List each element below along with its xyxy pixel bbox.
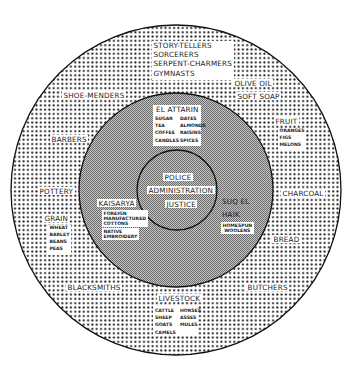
suq-el-haik-title-1: SUQ EL: [222, 198, 250, 205]
el-attarin-item: TEA: [155, 124, 179, 129]
grain-item: BEANS: [50, 240, 70, 245]
police-label: POLICE: [163, 173, 193, 181]
grain-item: BARLEY: [50, 233, 70, 238]
el-attarin-item: CANDLES: [155, 139, 179, 144]
el-attarin-item: ALMONDS: [180, 124, 206, 129]
fruit-item: FIGS: [280, 136, 305, 141]
kaisarya-title: KAISARYA: [97, 199, 136, 207]
livestock-item: MULES: [180, 323, 201, 328]
grain-item: WHEAT: [50, 226, 70, 231]
livestock-item: HORSES: [180, 309, 201, 314]
entertainer-label: SERPENT-CHARMERS: [154, 60, 233, 67]
olive-oil-label: OLIVE OIL: [233, 79, 273, 87]
livestock-item: SHEEP: [155, 316, 176, 321]
charcoal-label: CHARCOAL: [281, 189, 325, 197]
fruit-items: ORANGES FIGS MELONS: [278, 128, 306, 151]
el-attarin-title: EL ATTARIN: [156, 106, 199, 113]
grain-item: PEAS: [50, 247, 70, 252]
kaisarya-group2: NATIVE EMBROIDERY: [102, 228, 139, 240]
el-attarin-item: SPICES: [180, 139, 206, 144]
entertainers-list: STORY-TELLERS SORCERERS SERPENT-CHARMERS…: [152, 41, 234, 80]
kaisarya-item: EMBROIDERY: [104, 234, 138, 239]
kaisarya-group1: FOREIGN MANUFACTURED COTTONS: [102, 210, 148, 227]
blacksmiths-label: BLACKSMITHS: [66, 283, 122, 291]
livestock-item: CATTLE: [155, 309, 176, 314]
fruit-item: ORANGES: [280, 129, 305, 134]
el-attarin-col2: DATES ALMONDS RAISINS SPICES: [180, 117, 206, 146]
el-attarin-item: DATES: [180, 117, 206, 122]
el-attarin-item: COFFEE: [155, 131, 179, 136]
soft-soap-label: SOFT SOAP: [236, 92, 281, 100]
bread-label: BREAD: [272, 235, 301, 243]
butchers-label: BUTCHERS: [246, 283, 289, 291]
pottery-label: POTTERY: [38, 187, 75, 195]
livestock-item: CAMELS: [155, 331, 176, 336]
grain-label: GRAIN: [43, 214, 70, 222]
livestock-col1: CATTLE SHEEP GOATS CAMELS: [155, 309, 176, 338]
el-attarin-col1: SUGAR TEA COFFEE CANDLES: [155, 117, 179, 146]
entertainer-label: STORY-TELLERS: [154, 42, 233, 49]
shoe-menders-label: SHOE-MENDERS: [62, 91, 126, 99]
entertainer-label: SORCERERS: [154, 51, 233, 58]
livestock-col2: HORSES ASSES MULES: [180, 309, 201, 331]
el-attarin-item: SUGAR: [155, 117, 179, 122]
kaisarya-item: COTTONS: [104, 221, 147, 226]
livestock-label: LIVESTOCK: [157, 294, 202, 302]
suq-el-haik-title-2: HAIK: [222, 211, 240, 218]
fruit-item: MELONS: [280, 143, 305, 148]
livestock-item: ASSES: [180, 316, 201, 321]
justice-label: JUSTICE: [165, 200, 197, 208]
barbers-label: BARBERS: [50, 135, 88, 143]
administration-label: ADMINISTRATION: [147, 186, 215, 194]
el-attarin-item: RAISINS: [180, 131, 206, 136]
suq-el-haik-item: WOOLENS: [223, 228, 253, 234]
entertainer-label: GYMNASTS: [154, 70, 233, 77]
livestock-item: GOATS: [155, 323, 176, 328]
suq-el-haik-goods: HOMESPUN WOOLENS: [221, 222, 254, 234]
grain-items: WHEAT BARLEY BEANS PEAS: [48, 225, 71, 255]
fruit-label: FRUIT: [274, 117, 299, 125]
